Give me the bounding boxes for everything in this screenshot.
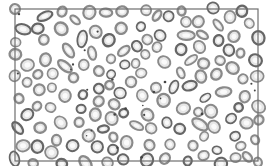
red-blood-cell <box>97 125 109 134</box>
platelet <box>124 107 127 110</box>
platelet <box>86 89 88 91</box>
platelet <box>201 112 204 115</box>
red-blood-cell <box>125 76 137 88</box>
platelet <box>70 68 72 70</box>
platelet <box>143 114 145 116</box>
red-blood-cell <box>52 135 61 146</box>
red-blood-cell <box>197 57 210 69</box>
red-blood-cell <box>31 23 44 34</box>
platelet <box>86 135 88 137</box>
red-blood-cell <box>224 11 235 23</box>
platelet <box>164 81 167 84</box>
red-blood-cell <box>131 58 140 68</box>
platelet <box>111 78 113 80</box>
red-blood-cell <box>121 136 133 150</box>
red-blood-cell <box>76 105 85 114</box>
red-blood-cell <box>10 38 21 48</box>
red-blood-cell <box>48 83 57 92</box>
platelet <box>84 49 86 51</box>
blood-smear-image <box>0 0 271 166</box>
platelet <box>113 113 116 116</box>
platelet <box>18 13 20 15</box>
red-blood-cell <box>119 60 130 70</box>
red-blood-cell <box>31 140 44 153</box>
red-blood-cell <box>175 43 188 56</box>
platelet <box>254 90 256 92</box>
platelet <box>17 72 19 74</box>
red-blood-cell <box>141 5 151 15</box>
red-blood-cell <box>90 108 101 121</box>
red-blood-cell <box>116 6 128 17</box>
red-blood-cell <box>233 102 244 113</box>
platelet <box>152 91 155 94</box>
red-blood-cell <box>250 70 264 82</box>
red-blood-cell <box>108 145 118 155</box>
red-blood-cell <box>78 59 89 70</box>
red-blood-cell <box>213 34 224 46</box>
platelet <box>160 98 162 100</box>
red-blood-cell <box>34 122 46 133</box>
platelet <box>96 30 98 32</box>
red-blood-cell <box>177 6 187 16</box>
red-blood-cell <box>74 118 83 127</box>
red-blood-cell <box>91 141 103 153</box>
platelet <box>90 130 92 132</box>
red-blood-cell <box>177 30 195 40</box>
platelet <box>116 147 118 149</box>
red-blood-cell <box>59 89 72 103</box>
platelet <box>142 105 144 107</box>
platelet <box>250 83 252 85</box>
platelet <box>140 156 143 159</box>
red-blood-cell <box>174 123 186 135</box>
red-blood-cell <box>39 53 51 67</box>
red-blood-cell <box>236 48 245 58</box>
red-blood-cell <box>47 68 58 79</box>
red-blood-cell <box>135 68 147 79</box>
platelet <box>72 63 74 65</box>
red-blood-cell <box>68 72 79 83</box>
